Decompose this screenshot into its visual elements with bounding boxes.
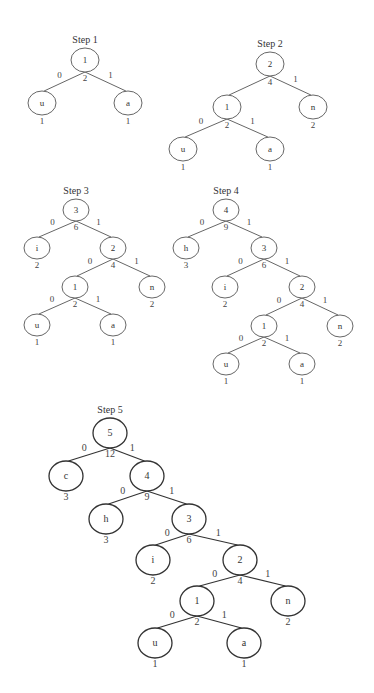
node-weight: 2 — [225, 120, 230, 130]
tree-node-a: a1 — [100, 314, 126, 347]
node-weight: 4 — [238, 575, 243, 586]
tree-node-u: u1 — [213, 353, 239, 386]
tree-node-r: 12 — [71, 48, 99, 83]
edge-label: 1 — [134, 256, 139, 266]
edge-label: 0 — [212, 568, 217, 579]
tree-edge — [156, 534, 189, 545]
tree-node-a: a1 — [114, 91, 142, 126]
edge-label: 0 — [200, 217, 205, 227]
tree-node-i: i2 — [136, 545, 170, 586]
tree-node-n2: 24 — [289, 276, 315, 309]
tree-node-h: h3 — [173, 237, 199, 270]
step-title: Step 3 — [63, 185, 88, 196]
node-label: u — [181, 144, 186, 154]
node-weight: 4 — [111, 260, 116, 270]
tree-edge — [113, 259, 150, 276]
node-label: a — [242, 637, 247, 648]
edge-label: 1 — [285, 256, 290, 266]
node-weight: 2 — [73, 299, 78, 309]
edge-label: 0 — [50, 294, 55, 304]
tree-node-a: a1 — [227, 628, 261, 669]
tree-edge — [109, 491, 147, 504]
tree-node-n2: 24 — [100, 237, 126, 270]
node-weight: 1 — [126, 116, 131, 126]
node-weight: 1 — [40, 116, 45, 126]
tree-node-n: n2 — [139, 276, 165, 309]
tree-edge — [264, 259, 300, 276]
node-weight: 2 — [286, 616, 291, 627]
node-label: u — [40, 98, 45, 108]
node-weight: 2 — [262, 338, 267, 348]
tree-node-n1: 12 — [62, 276, 88, 309]
tree-edge — [302, 298, 338, 315]
edge-label: 0 — [165, 527, 170, 538]
node-label: h — [184, 243, 189, 253]
edge-label: 0 — [57, 70, 62, 80]
tree-node-n1: 12 — [213, 95, 241, 130]
node-label: h — [104, 513, 109, 524]
tree-edge — [110, 448, 144, 461]
tree-node-n2: 24 — [223, 545, 257, 586]
node-weight: 2 — [223, 299, 228, 309]
tree-edge — [229, 76, 270, 95]
tree-node-u: u1 — [138, 628, 172, 669]
node-weight: 4 — [300, 299, 305, 309]
tree-node-i: i2 — [24, 237, 50, 270]
node-weight: 6 — [187, 534, 192, 545]
node-weight: 9 — [145, 491, 150, 502]
node-weight: 3 — [184, 260, 189, 270]
tree-node-n1: 12 — [251, 315, 277, 348]
tree-node-n3: 36 — [172, 504, 206, 545]
node-weight: 9 — [224, 222, 229, 232]
node-weight: 2 — [151, 575, 156, 586]
tree-node-h: h3 — [89, 504, 123, 545]
edge-label: 1 — [247, 217, 252, 227]
node-label: c — [64, 470, 69, 481]
edge-label: 1 — [108, 70, 113, 80]
edge-label: 1 — [96, 294, 101, 304]
node-label: a — [268, 144, 272, 154]
node-weight: 2 — [35, 260, 40, 270]
node-label: n — [286, 595, 291, 606]
tree-edge — [39, 298, 75, 314]
tree-node-r: 49 — [213, 199, 239, 232]
tree-edge — [227, 119, 268, 137]
tree-edge — [76, 221, 111, 237]
tree-edge — [228, 337, 264, 353]
node-label: u — [224, 359, 229, 369]
node-label: i — [152, 554, 155, 565]
node-label: 1 — [195, 595, 200, 606]
edge-label: 0 — [170, 609, 175, 620]
tree-node-r: 24 — [256, 52, 284, 87]
tree-node-a: a1 — [289, 353, 315, 386]
edge-label: 0 — [88, 256, 93, 266]
edge-label: 1 — [130, 442, 135, 453]
node-label: 2 — [300, 282, 305, 292]
tree-edge — [69, 448, 110, 461]
node-label: 2 — [268, 59, 273, 69]
tree-node-n: n2 — [327, 315, 353, 348]
step-title: Step 1 — [72, 34, 97, 45]
node-weight: 2 — [195, 616, 200, 627]
tree-node-n4: 49 — [130, 461, 164, 502]
node-weight: 1 — [35, 337, 40, 347]
tree-edge — [75, 298, 111, 314]
node-weight: 2 — [338, 338, 343, 348]
node-label: n — [150, 282, 155, 292]
step-title: Step 4 — [213, 185, 238, 196]
node-label: 2 — [238, 554, 243, 565]
edge-label: 1 — [169, 485, 174, 496]
node-label: a — [300, 359, 304, 369]
edge-label: 1 — [96, 217, 101, 227]
node-weight: 3 — [64, 491, 69, 502]
edge-label: 0 — [239, 333, 244, 343]
tree-edge — [185, 119, 227, 137]
tree-edge — [188, 221, 226, 237]
tree-node-u: u1 — [169, 137, 197, 172]
node-weight: 1 — [181, 162, 186, 172]
node-weight: 2 — [150, 299, 155, 309]
tree-edge — [264, 337, 300, 353]
node-weight: 1 — [153, 658, 158, 669]
tree-node-c: c3 — [49, 461, 83, 502]
edge-label: 1 — [265, 568, 270, 579]
